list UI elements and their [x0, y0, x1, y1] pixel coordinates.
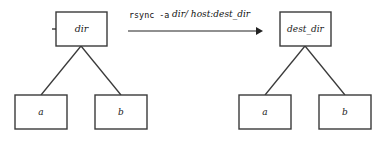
node-dest-b-label: b: [342, 107, 348, 117]
node-source-b[interactable]: b: [95, 95, 147, 129]
arrow-head-icon: [256, 27, 263, 35]
node-dest-dir[interactable]: dest_dir: [280, 12, 331, 46]
edge-dir-to-a: [41, 46, 81, 95]
node-dest-a[interactable]: a: [239, 95, 291, 129]
rsync-command-arrow: rsync -a dir/ host:dest_dir: [128, 9, 263, 35]
edge-destdir-to-a: [265, 46, 305, 95]
command-program-text: rsync -a: [129, 10, 169, 20]
diagram-canvas: dir a b rsync -a dir/ host:dest_dir: [0, 0, 390, 141]
node-dir[interactable]: dir: [52, 12, 107, 46]
node-dest-b[interactable]: b: [319, 95, 371, 129]
node-source-a-label: a: [38, 107, 43, 117]
edge-destdir-to-b: [305, 46, 345, 95]
source-tree: dir a b: [15, 12, 147, 129]
edge-dir-to-b: [81, 46, 121, 95]
node-source-b-label: b: [118, 107, 124, 117]
node-dest-dir-label: dest_dir: [287, 24, 324, 35]
node-dir-label: dir: [75, 23, 90, 34]
rsync-diagram: dir a b rsync -a dir/ host:dest_dir: [0, 0, 390, 141]
node-source-a[interactable]: a: [15, 95, 67, 129]
node-dest-a-label: a: [262, 107, 267, 117]
command-arguments-text: dir/ host:dest_dir: [172, 9, 251, 20]
